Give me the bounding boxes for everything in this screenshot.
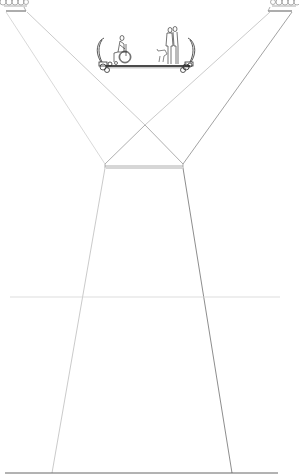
platform-wheel-left-icon [97, 38, 112, 73]
light-beam-right [105, 12, 292, 164]
stage-light-right-icon [268, 0, 299, 11]
light-beam-left [6, 12, 183, 164]
dog-figure [157, 49, 167, 62]
section-drawing [0, 0, 299, 476]
wheelchair-user-figure [114, 36, 131, 65]
standing-person-figure [166, 27, 178, 65]
trapezoid-column [52, 168, 232, 473]
drawing-canvas: Suspended accessible platform with light… [0, 0, 299, 476]
junction-crossbar [105, 164, 183, 168]
platform-wheel-right-icon [181, 38, 195, 73]
stage-light-left-icon [0, 0, 29, 11]
suspended-platform [97, 27, 195, 73]
